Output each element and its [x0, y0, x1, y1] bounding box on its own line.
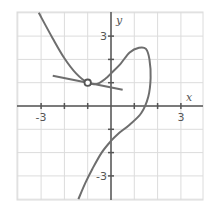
- x-axis-label: x: [186, 91, 193, 104]
- annotations: [85, 80, 91, 86]
- axes: [17, 12, 203, 200]
- x-tick-label: -3: [36, 111, 47, 124]
- point-of-tangency: [85, 80, 91, 86]
- x-tick-label: 3: [177, 111, 184, 124]
- y-tick-label: -3: [96, 170, 107, 183]
- y-tick-label: 3: [100, 30, 107, 43]
- y-axis-label: y: [115, 14, 123, 27]
- graph-plot: -333-3 x y: [0, 0, 215, 212]
